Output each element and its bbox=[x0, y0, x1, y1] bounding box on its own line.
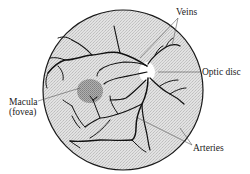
arteries-label: Arteries bbox=[193, 143, 224, 153]
fovea-label: (fovea) bbox=[9, 107, 36, 117]
macula-label: Macula bbox=[9, 97, 38, 107]
veins-label: Veins bbox=[176, 7, 197, 17]
retina-disc bbox=[43, 10, 203, 170]
macula-spot bbox=[77, 79, 103, 103]
optic-disc-label: Optic disc bbox=[202, 67, 241, 77]
